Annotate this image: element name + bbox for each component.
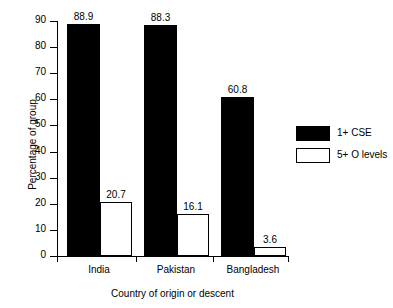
y-axis-tick [50,152,57,153]
y-axis-tick [50,178,57,179]
y-axis-tick-label: 60 [24,92,46,103]
y-axis-tick [50,73,57,74]
bar-pakistan-olevels [177,214,209,256]
bar-value-label: 60.8 [218,84,258,95]
legend-label: 5+ O levels [337,149,387,160]
y-axis-tick [50,204,57,205]
bar-india-cse [67,24,100,256]
x-axis-title: Country of origin or descent [57,288,288,299]
y-axis-tick-label: 50 [24,118,46,129]
y-axis-tick-label: 70 [24,66,46,77]
y-axis-tick [50,21,57,22]
y-axis-tick-label: 30 [24,171,46,182]
bar-pakistan-cse [144,25,177,256]
x-axis-tick [213,256,214,262]
y-axis-tick [50,256,57,257]
y-axis-tick [50,47,57,48]
y-axis-tick [50,230,57,231]
y-axis-tick [50,99,57,100]
y-axis-tick-label: 90 [24,14,46,25]
y-axis-tick-label: 40 [24,145,46,156]
bar-bangladesh-olevels [254,247,286,256]
y-axis-line [57,21,58,257]
y-axis-tick [50,125,57,126]
bar-bangladesh-cse [221,97,254,256]
y-axis-tick-label: 20 [24,197,46,208]
legend-swatch [296,148,330,163]
x-axis-category-label: Bangladesh [208,264,298,275]
y-axis-tick-label: 0 [24,249,46,260]
y-axis-tick-label: 10 [24,223,46,234]
legend-swatch [296,126,330,141]
y-axis-tick-label: 80 [24,40,46,51]
x-axis-tick [57,256,58,262]
bar-chart: Percentage of group 0102030405060708090 … [0,0,393,308]
legend-label: 1+ CSE [337,127,372,138]
bar-india-olevels [100,202,132,256]
bar-value-label: 88.9 [64,11,104,22]
bar-value-label: 88.3 [141,12,181,23]
x-axis-tick [136,256,137,262]
x-axis-tick [288,256,289,262]
x-axis-line [57,256,288,257]
bar-value-label: 20.7 [96,189,136,200]
bar-value-label: 3.6 [250,234,290,245]
bar-value-label: 16.1 [173,201,213,212]
